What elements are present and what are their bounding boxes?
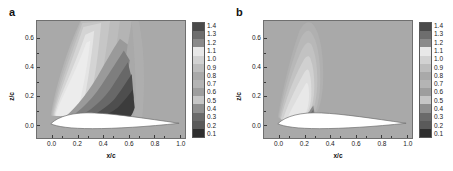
x-tick-label: 0.8 bbox=[377, 141, 386, 148]
panel-a-x-axis-title: x/c bbox=[36, 152, 186, 159]
colorbar-tick-label: 1.1 bbox=[434, 48, 443, 55]
colorbar-band bbox=[193, 56, 204, 64]
colorbar-tick-label: 0.8 bbox=[207, 73, 216, 80]
colorbar-band bbox=[193, 72, 204, 80]
colorbar-tick-label: 1.1 bbox=[207, 48, 216, 55]
colorbar-band bbox=[193, 121, 204, 129]
y-tick-label: 0.4 bbox=[252, 64, 261, 71]
colorbar-tick-label: 0.9 bbox=[434, 64, 443, 71]
colorbar-band bbox=[420, 113, 431, 121]
y-tick-label: 0.2 bbox=[25, 93, 34, 100]
panel-a-colorbar-labels: 1.41.31.21.11.00.90.80.70.60.50.40.30.20… bbox=[207, 22, 227, 138]
x-tick-label: 0.0 bbox=[47, 141, 56, 148]
colorbar-band bbox=[193, 96, 204, 104]
panel-a: a bbox=[0, 0, 226, 171]
y-tick-label: 0.0 bbox=[252, 123, 261, 130]
colorbar-band bbox=[193, 39, 204, 47]
colorbar-band bbox=[193, 31, 204, 39]
colorbar-band bbox=[420, 96, 431, 104]
x-tick-label: 0.8 bbox=[150, 141, 159, 148]
colorbar-tick-label: 0.5 bbox=[207, 97, 216, 104]
panel-b-y-axis-title: z/c bbox=[235, 92, 242, 101]
y-tick-label: 0.2 bbox=[252, 93, 261, 100]
colorbar-band bbox=[420, 23, 431, 31]
x-tick-label: 0.2 bbox=[300, 141, 309, 148]
colorbar-band bbox=[420, 80, 431, 88]
colorbar-band bbox=[193, 88, 204, 96]
colorbar-band bbox=[420, 56, 431, 64]
colorbar-tick-label: 0.6 bbox=[434, 89, 443, 96]
colorbar-tick-label: 0.4 bbox=[434, 106, 443, 113]
panel-b-y-tick-labels: 0.0 0.2 0.4 0.6 z/c bbox=[241, 20, 261, 139]
colorbar-tick-label: 0.4 bbox=[207, 106, 216, 113]
colorbar-band bbox=[193, 129, 204, 137]
colorbar-tick-label: 1.4 bbox=[434, 23, 443, 30]
colorbar-tick-label: 0.7 bbox=[207, 81, 216, 88]
x-tick-label: 0.0 bbox=[274, 141, 283, 148]
colorbar-tick-label: 1.0 bbox=[434, 56, 443, 63]
x-tick-label: 0.2 bbox=[73, 141, 82, 148]
colorbar-band bbox=[420, 47, 431, 55]
colorbar-band bbox=[420, 31, 431, 39]
x-tick-label: 0.4 bbox=[326, 141, 335, 148]
colorbar-band bbox=[193, 80, 204, 88]
panel-b-contour-layer bbox=[264, 21, 412, 138]
panel-a-colorbar bbox=[192, 22, 205, 138]
panel-a-label: a bbox=[9, 7, 15, 18]
y-tick-label: 0.0 bbox=[25, 123, 34, 130]
colorbar-band bbox=[420, 39, 431, 47]
panel-b-plot-area bbox=[263, 20, 413, 139]
x-tick-label: 0.6 bbox=[352, 141, 361, 148]
panel-a-contour-layer bbox=[37, 21, 185, 138]
colorbar-tick-label: 0.2 bbox=[434, 122, 443, 129]
panel-b-colorbar bbox=[419, 22, 432, 138]
colorbar-band bbox=[420, 88, 431, 96]
colorbar-tick-label: 0.6 bbox=[207, 89, 216, 96]
colorbar-tick-label: 0.3 bbox=[434, 114, 443, 121]
colorbar-tick-label: 1.3 bbox=[434, 31, 443, 38]
y-tick-label: 0.6 bbox=[252, 34, 261, 41]
x-tick-label: 0.6 bbox=[125, 141, 134, 148]
colorbar-tick-label: 1.0 bbox=[207, 56, 216, 63]
x-tick-label: 0.4 bbox=[99, 141, 108, 148]
panel-b-x-axis-title: x/c bbox=[263, 152, 413, 159]
colorbar-tick-label: 0.1 bbox=[207, 131, 216, 138]
colorbar-band bbox=[420, 64, 431, 72]
panel-b-contour-plot bbox=[264, 21, 412, 138]
colorbar-tick-label: 0.9 bbox=[207, 64, 216, 71]
colorbar-band bbox=[420, 104, 431, 112]
colorbar-tick-label: 0.8 bbox=[434, 73, 443, 80]
colorbar-band bbox=[193, 23, 204, 31]
colorbar-band bbox=[193, 113, 204, 121]
colorbar-tick-label: 0.7 bbox=[434, 81, 443, 88]
panel-b: b bbox=[227, 0, 453, 171]
panel-a-y-axis-title: z/c bbox=[8, 92, 15, 101]
panel-b-colorbar-labels: 1.41.31.21.11.00.90.80.70.60.50.40.30.20… bbox=[434, 22, 453, 138]
colorbar-tick-label: 1.2 bbox=[434, 39, 443, 46]
colorbar-tick-label: 1.3 bbox=[207, 31, 216, 38]
colorbar-tick-label: 0.2 bbox=[207, 122, 216, 129]
colorbar-band bbox=[420, 72, 431, 80]
panel-b-label: b bbox=[236, 7, 243, 18]
panel-a-y-tick-labels: 0.0 0.2 0.4 0.6 z/c bbox=[14, 20, 34, 139]
colorbar-tick-label: 0.3 bbox=[207, 114, 216, 121]
colorbar-band bbox=[193, 47, 204, 55]
panel-a-contour-plot bbox=[37, 21, 185, 138]
colorbar-band bbox=[420, 121, 431, 129]
colorbar-tick-label: 0.1 bbox=[434, 131, 443, 138]
x-tick-label: 1.0 bbox=[176, 141, 185, 148]
colorbar-band bbox=[420, 129, 431, 137]
colorbar-tick-label: 1.2 bbox=[207, 39, 216, 46]
y-tick-label: 0.4 bbox=[25, 64, 34, 71]
panel-a-plot-area bbox=[36, 20, 186, 139]
colorbar-tick-label: 0.5 bbox=[434, 97, 443, 104]
colorbar-tick-label: 1.4 bbox=[207, 23, 216, 30]
figure-container: a bbox=[0, 0, 453, 171]
colorbar-band bbox=[193, 104, 204, 112]
colorbar-band bbox=[193, 64, 204, 72]
x-tick-label: 1.0 bbox=[403, 141, 412, 148]
y-tick-label: 0.6 bbox=[25, 34, 34, 41]
